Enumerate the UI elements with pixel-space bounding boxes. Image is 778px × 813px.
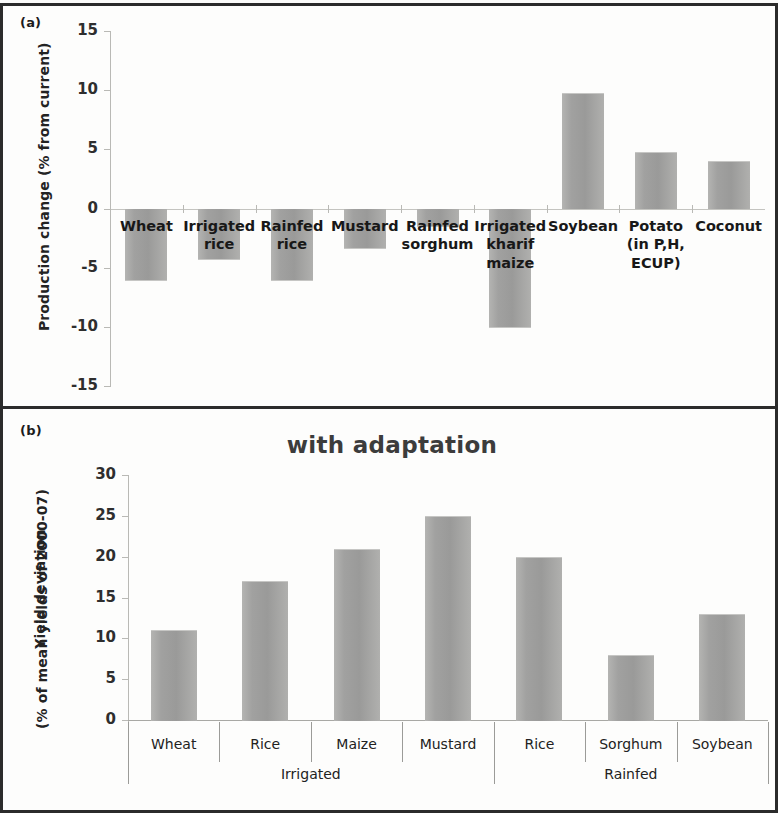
panel-b-bar — [151, 630, 197, 721]
panel-a-y-tick — [104, 149, 111, 150]
panel-b-y-tick — [122, 475, 129, 476]
panel-b-bar — [425, 516, 471, 721]
panel-a-y-tick-label: 0 — [38, 199, 98, 217]
panel-a-bar — [562, 93, 604, 210]
panel-a-x-tick — [328, 205, 329, 213]
panel-b-axis-right-edge — [768, 722, 769, 784]
panel-b-y-tick — [122, 516, 129, 517]
panel-a-y-tick-label: 15 — [38, 21, 98, 39]
panel-a: (a) Production change (% from current) 1… — [0, 3, 778, 406]
panel-b-plot-area: 302520151050WheatRiceMaizeMustardRiceSor… — [128, 475, 768, 785]
panel-b-group-label: Rainfed — [494, 766, 768, 782]
panel-b-category-label: Soybean — [667, 736, 777, 752]
panel-b-bar — [699, 614, 745, 721]
panel-b-y-tick-label: 20 — [58, 547, 116, 565]
panel-b-category-separator — [402, 722, 403, 762]
panel-a-bar — [635, 152, 677, 210]
panel-a-y-tick — [104, 31, 111, 32]
panel-a-y-tick-label: -15 — [38, 376, 98, 394]
panel-b-y-tick-label: 10 — [58, 628, 116, 646]
panel-b-y-tick-label: 15 — [58, 588, 116, 606]
panel-b-y-tick — [122, 679, 129, 680]
panel-b-y-tick-label: 5 — [58, 669, 116, 687]
panel-b: (b) with adaptation Yield deviation (% o… — [0, 406, 778, 813]
panel-a-x-tick — [256, 205, 257, 213]
panel-b-category-separator — [311, 722, 312, 762]
panel-b-bar — [334, 549, 380, 722]
figure-root: (a) Production change (% from current) 1… — [0, 0, 778, 813]
panel-a-y-tick — [104, 386, 111, 387]
panel-b-group-label: Irrigated — [128, 766, 494, 782]
panel-a-y-tick-label: 5 — [38, 139, 98, 157]
panel-b-bar — [242, 581, 288, 721]
panel-a-y-tick-label: -10 — [38, 317, 98, 335]
panel-a-y-tick — [104, 268, 111, 269]
panel-a-y-tick — [104, 90, 111, 91]
panel-a-y-tick-label: 10 — [38, 80, 98, 98]
panel-a-bar — [708, 161, 750, 209]
panel-b-bar — [608, 655, 654, 721]
panel-b-y-tick — [122, 638, 129, 639]
panel-b-title: with adaptation — [3, 432, 778, 458]
panel-a-y-tick-label: -5 — [38, 258, 98, 276]
panel-b-y-tick — [122, 598, 129, 599]
panel-a-x-tick — [401, 205, 402, 213]
panel-a-x-tick — [183, 205, 184, 213]
panel-b-y-axis-label-line2: (% of mean yields of 2000-07) — [34, 474, 50, 744]
panel-b-category-separator — [219, 722, 220, 762]
panel-b-category-separator — [585, 722, 586, 762]
panel-a-x-tick — [619, 205, 620, 213]
panel-a-y-tick — [104, 327, 111, 328]
panel-b-y-tick-label: 0 — [58, 710, 116, 728]
panel-a-category-label: Coconut — [677, 217, 778, 236]
panel-a-x-tick — [692, 205, 693, 213]
panel-b-category-separator — [677, 722, 678, 762]
panel-a-plot-area: 151050-5-10-15WheatIrrigated riceRainfed… — [110, 31, 765, 386]
panel-a-x-tick — [547, 205, 548, 213]
panel-a-x-tick — [474, 205, 475, 213]
panel-a-x-tick — [110, 205, 111, 213]
panel-b-y-tick-label: 30 — [58, 465, 116, 483]
panel-b-y-tick-label: 25 — [58, 506, 116, 524]
panel-b-bar — [516, 557, 562, 721]
panel-b-y-tick — [122, 557, 129, 558]
